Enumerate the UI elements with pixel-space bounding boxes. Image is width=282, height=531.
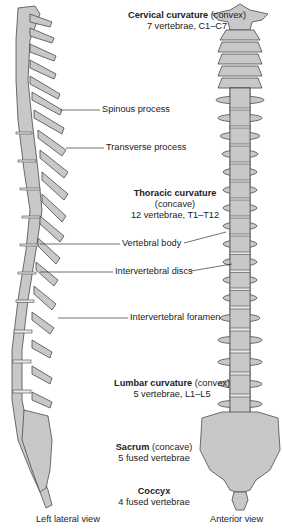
intervertebral-foramen-label: Intervertebral foramen <box>130 312 220 323</box>
intervertebral-discs-label: Intervertebral discs <box>115 266 193 277</box>
transverse-process-label: Transverse process <box>106 142 186 153</box>
spinous-process-label: Spinous process <box>102 104 170 115</box>
thoracic-label: Thoracic curvature (concave) 12 vertebra… <box>120 188 230 221</box>
lumbar-label: Lumbar curvature (convex) 5 vertebrae, L… <box>102 378 242 400</box>
left-lateral-view-caption: Left lateral view <box>36 514 100 525</box>
sacrum-label: Sacrum (concave) 5 fused vertebrae <box>100 442 208 464</box>
coccyx-anterior <box>232 492 248 510</box>
pelvis-sacrum <box>200 412 280 492</box>
anterior-view-caption: Anterior view <box>210 514 263 525</box>
coccyx-label: Coccyx 4 fused vertebrae <box>100 486 208 508</box>
sacrum-lateral <box>22 410 52 492</box>
anterior-spine <box>200 4 280 510</box>
lateral-spine <box>12 6 68 508</box>
vertebral-body-label: Vertebral body <box>122 238 181 249</box>
cervical-label: Cervical curvature (convex) 7 vertebrae,… <box>112 10 262 32</box>
